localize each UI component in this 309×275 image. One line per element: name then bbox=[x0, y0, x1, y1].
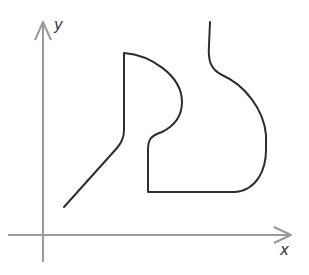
diagram-svg bbox=[0, 0, 309, 275]
x-axis bbox=[8, 227, 291, 243]
y-axis bbox=[35, 22, 51, 262]
x-axis-label: x bbox=[280, 243, 289, 258]
function-curve bbox=[64, 22, 266, 207]
y-axis-label: y bbox=[54, 18, 63, 33]
diagram-canvas: y x bbox=[0, 0, 309, 275]
